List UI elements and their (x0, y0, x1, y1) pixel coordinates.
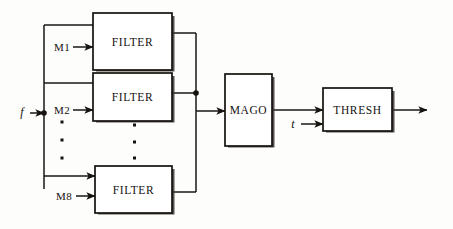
block-diagram-svg: FILTER FILTER FILTER MAGO THRESH f M (0, 0, 453, 229)
ellipsis-dot (133, 124, 136, 127)
input-junction-dot (41, 110, 47, 116)
signal-label-m2: M2 (54, 104, 70, 116)
ellipsis-left-column (61, 121, 64, 160)
ellipsis-dot (61, 121, 64, 124)
filter-2-label: FILTER (112, 91, 154, 103)
filter-1-label: FILTER (112, 36, 154, 48)
signal-label-m8: M8 (56, 190, 72, 202)
block-filter-8[interactable]: FILTER (95, 166, 175, 215)
filter-8-label: FILTER (113, 184, 155, 196)
block-mago[interactable]: MAGO (225, 74, 275, 148)
ellipsis-middle-column (133, 124, 136, 160)
ellipsis-dot (133, 141, 136, 144)
block-diagram-canvas: FILTER FILTER FILTER MAGO THRESH f M (0, 0, 453, 229)
ellipsis-dot (61, 157, 64, 160)
signal-label-t: t (291, 117, 295, 131)
signal-label-m1: M1 (54, 41, 70, 53)
thresh-label: THRESH (333, 104, 381, 116)
coefficient-wires-group (73, 47, 95, 196)
mago-label: MAGO (230, 104, 268, 116)
ellipsis-dot (133, 157, 136, 160)
output-junction-dot (193, 90, 199, 96)
block-filter-2[interactable]: FILTER (93, 73, 175, 123)
collector-bus-group (172, 33, 225, 192)
block-thresh[interactable]: THRESH (323, 88, 395, 133)
signal-label-f: f (20, 105, 25, 119)
block-filter-1[interactable]: FILTER (93, 13, 175, 72)
ellipsis-dot (61, 139, 64, 142)
